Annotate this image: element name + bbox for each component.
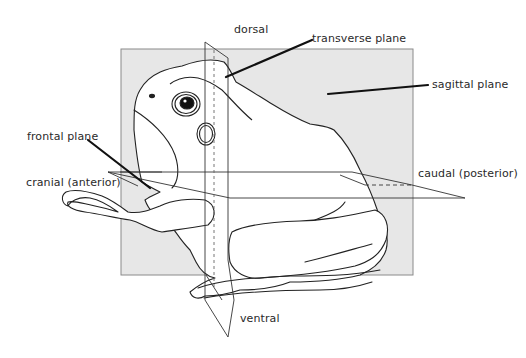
- label-ventral: ventral: [240, 313, 280, 324]
- label-dorsal: dorsal: [234, 24, 268, 35]
- label-cranial-anterior: cranial (anterior): [26, 177, 121, 188]
- label-frontal-plane: frontal plane: [27, 131, 98, 142]
- label-caudal-posterior: caudal (posterior): [418, 168, 518, 179]
- label-transverse-plane: transverse plane: [312, 33, 406, 44]
- anatomical-planes-diagram: dorsal transverse plane sagittal plane f…: [0, 0, 526, 358]
- eye-pupil: [180, 97, 194, 109]
- label-sagittal-plane: sagittal plane: [432, 79, 508, 90]
- nostril: [150, 94, 155, 97]
